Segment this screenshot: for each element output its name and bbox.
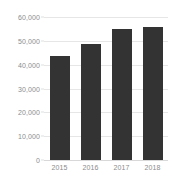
y-axis-tick-label: 50,000 [0,37,40,44]
bar[interactable] [112,29,132,160]
y-axis: 60,000 50,000 40,000 30,000 20,000 10,00… [0,17,40,160]
y-axis-tick-label: 10,000 [0,133,40,140]
bar-slot [75,17,106,160]
plot-area [44,17,168,160]
bar-slot [106,17,137,160]
x-axis: 2015 2016 2017 2018 [44,164,168,171]
bar[interactable] [81,44,101,160]
x-axis-tick-label: 2017 [106,164,137,171]
y-axis-tick-label: 60,000 [0,14,40,21]
x-axis-tick-label: 2016 [75,164,106,171]
bar-slot [44,17,75,160]
x-axis-tick-label: 2018 [137,164,168,171]
y-axis-tick-label: 40,000 [0,61,40,68]
bar-chart: 60,000 50,000 40,000 30,000 20,000 10,00… [0,0,172,183]
y-axis-tick-label: 20,000 [0,109,40,116]
bar-series [44,17,168,160]
axis-baseline [44,160,168,161]
bar[interactable] [50,56,70,160]
bar-slot [137,17,168,160]
bar[interactable] [143,27,163,160]
y-axis-tick-label: 0 [0,157,40,164]
x-axis-tick-label: 2015 [44,164,75,171]
y-axis-tick-label: 30,000 [0,85,40,92]
